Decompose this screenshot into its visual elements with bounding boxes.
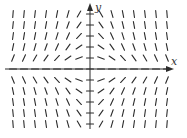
slope-segment [166,88,167,95]
x-axis-label: x [171,56,177,67]
slope-segment [77,11,80,17]
slope-segment [45,33,47,40]
slope-segment [155,77,158,83]
slope-segment [111,121,113,128]
slope-segment [144,88,146,95]
slope-segment [133,44,135,51]
slope-segment [33,77,36,83]
slope-segment [33,55,36,61]
slope-segment [13,11,14,18]
slope-segment [155,44,157,51]
slope-segment [77,110,81,116]
slope-segment [44,77,48,83]
slope-segment [132,77,136,83]
slope-segment [122,33,124,40]
slope-segment [133,33,135,40]
slope-segment [24,110,25,117]
slope-segment [122,99,124,106]
slope-segment [156,110,157,117]
slope-segment [12,55,15,61]
slope-segment [145,110,146,117]
slope-segment [77,121,80,127]
slope-segment [12,44,13,51]
slope-segment [23,44,25,51]
slope-segment [133,22,134,29]
slope-segment [35,22,36,29]
slope-segment [56,99,58,106]
slope-segment [155,88,157,95]
slope-segment [12,77,15,83]
slope-segment [109,78,115,82]
slope-segment [24,11,25,18]
slope-segment [167,121,168,128]
slope-segment [34,33,35,40]
slope-segment [156,121,157,128]
slope-segment [46,121,47,128]
axes [5,3,174,129]
slope-segment [144,99,145,106]
slope-segment [99,110,103,116]
slope-segment [24,121,25,128]
slope-segment [143,55,146,61]
slope-segment [111,110,113,117]
slope-segment [67,110,69,117]
slope-segment [155,99,156,106]
slope-segment [24,22,25,29]
slope-segment [23,33,24,40]
slope-segment [12,88,13,95]
slope-segment [13,110,14,117]
slope-field-canvas [0,0,187,138]
slope-segment [111,99,114,105]
slope-segment [56,33,58,40]
slope-segment [133,110,134,117]
slope-segment [145,11,146,18]
slope-segment [99,33,104,38]
slope-segment [167,33,168,40]
slope-segment [34,44,36,51]
slope-segment [65,56,71,60]
slope-segment [67,99,70,105]
slope-segment [133,88,135,95]
slope-segment [67,22,69,29]
slope-segment [35,11,36,18]
slope-segment [132,55,136,61]
slope-segment [77,99,82,104]
slope-segment [167,99,168,106]
slope-segment [45,88,47,95]
slope-segment [98,79,105,81]
slope-segment [23,55,26,61]
slope-segment [35,110,36,117]
slope-segment [76,89,82,93]
y-axis-label: y [95,2,101,13]
slope-segment [66,88,70,94]
slope-segment [155,33,156,40]
slope-segment [166,55,169,61]
slope-segment [99,99,104,104]
slope-segment [23,77,26,83]
slope-segment [55,55,60,60]
slope-segment [110,44,114,50]
slope-segment [166,44,167,51]
slope-segment [111,22,113,29]
slope-segment [111,33,114,39]
slope-segment [121,55,126,60]
slope-segment [134,11,135,18]
slope-segment [167,11,168,18]
slope-segment [45,110,46,117]
slope-segment [34,88,36,95]
slope-segment [122,22,124,29]
slope-segment [167,110,168,117]
slope-segment [13,22,14,29]
slope-segment [134,121,135,128]
slope-segment [55,77,60,82]
slope-segment [155,55,158,61]
slope-segment [111,11,113,18]
slope-segment [143,77,146,83]
slope-segment [122,44,125,50]
slope-segment [133,99,135,106]
slope-segment [122,121,123,128]
y-axis-arrow-icon [87,3,93,11]
slope-segment [67,121,69,128]
slope-segment [122,88,125,94]
slope-segment [56,88,59,94]
